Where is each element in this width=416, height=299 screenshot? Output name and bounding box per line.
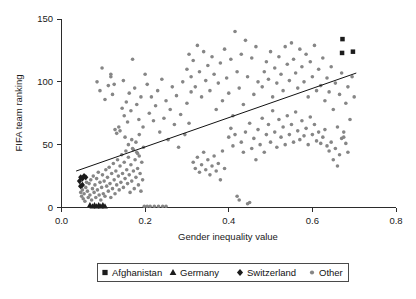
data-point-circle bbox=[229, 57, 233, 61]
data-point-circle bbox=[292, 57, 296, 61]
data-point-circle bbox=[97, 193, 101, 197]
data-point-circle bbox=[315, 89, 319, 93]
data-point-circle bbox=[210, 55, 214, 59]
data-point-circle bbox=[311, 75, 315, 79]
x-axis-title: Gender inequality value bbox=[178, 231, 278, 242]
data-point-circle bbox=[191, 160, 195, 164]
data-point-circle bbox=[99, 198, 103, 202]
data-point-circle bbox=[281, 125, 285, 129]
data-point-circle bbox=[91, 174, 95, 178]
data-point-circle bbox=[204, 79, 208, 83]
data-point-circle bbox=[231, 144, 235, 148]
data-point-circle bbox=[181, 80, 185, 84]
x-tick-label: 0.6 bbox=[306, 215, 319, 226]
x-axis-ticks: 0.00.20.40.60.8 bbox=[55, 208, 403, 227]
data-point-circle bbox=[82, 192, 86, 196]
data-point-circle bbox=[254, 158, 258, 162]
data-point-circle bbox=[139, 189, 143, 193]
data-point-circle bbox=[127, 173, 131, 177]
data-point-circle bbox=[105, 184, 109, 188]
data-point-circle bbox=[117, 188, 121, 192]
data-point-circle bbox=[179, 113, 183, 117]
legend-label-other: Other bbox=[319, 267, 343, 278]
data-point-circle bbox=[271, 95, 275, 99]
data-point-circle bbox=[202, 50, 206, 54]
data-point-circle bbox=[235, 194, 239, 198]
data-point-circle bbox=[122, 186, 126, 190]
data-point-circle bbox=[87, 182, 91, 186]
data-point-circle bbox=[107, 84, 111, 88]
data-point-circle bbox=[153, 204, 157, 208]
data-point-circle bbox=[107, 165, 111, 169]
data-point-circle bbox=[317, 67, 321, 71]
data-point-circle bbox=[338, 153, 342, 157]
data-point-circle bbox=[138, 172, 142, 176]
data-point-circle bbox=[223, 47, 227, 51]
data-point-circle bbox=[111, 187, 115, 191]
data-point-circle bbox=[187, 122, 191, 126]
data-point-circle bbox=[117, 174, 121, 178]
data-point-circle bbox=[96, 171, 100, 175]
data-point-circle bbox=[323, 99, 327, 103]
data-point-circle bbox=[331, 158, 335, 162]
data-point-circle bbox=[122, 114, 126, 118]
data-point-circle bbox=[127, 155, 131, 159]
data-point-circle bbox=[290, 123, 294, 127]
data-point-circle bbox=[227, 91, 231, 95]
data-point-circle bbox=[141, 178, 145, 182]
data-point-circle bbox=[262, 150, 266, 154]
data-point-circle bbox=[94, 196, 98, 200]
data-point-circle bbox=[308, 115, 312, 119]
data-point-circle bbox=[110, 172, 114, 176]
data-point-circle bbox=[115, 183, 119, 187]
data-point-circle bbox=[113, 128, 117, 132]
data-point-circle bbox=[116, 158, 120, 162]
data-point-circle bbox=[344, 142, 348, 146]
data-point-circle bbox=[327, 90, 331, 94]
data-point-circle bbox=[214, 108, 218, 112]
data-point-circle bbox=[336, 164, 340, 168]
data-point-circle bbox=[109, 72, 113, 76]
data-point-circle bbox=[185, 101, 189, 105]
chart-legend: AfghanistanGermanySwitzerlandOther bbox=[98, 264, 349, 282]
data-point-circle bbox=[298, 47, 302, 51]
x-tick-label: 0.2 bbox=[139, 215, 152, 226]
y-axis-ticks: 050100150 bbox=[37, 13, 61, 213]
data-point-circle bbox=[288, 79, 292, 83]
data-point-circle bbox=[216, 162, 220, 166]
data-point-circle bbox=[148, 111, 152, 115]
data-point-circle bbox=[275, 81, 279, 85]
data-point-circle bbox=[91, 187, 95, 191]
data-point-circle bbox=[250, 56, 254, 60]
data-point-circle bbox=[124, 149, 128, 153]
data-point-circle bbox=[262, 70, 266, 74]
data-point-circle bbox=[135, 103, 139, 107]
data-point-circle bbox=[123, 135, 127, 139]
data-point-circle bbox=[132, 169, 136, 173]
data-point-circle bbox=[139, 95, 143, 99]
data-point-circle bbox=[112, 83, 116, 87]
data-point-circle bbox=[143, 72, 147, 76]
data-point-circle bbox=[237, 198, 241, 202]
data-point-circle bbox=[200, 95, 204, 99]
data-point-circle bbox=[219, 61, 223, 65]
data-point-circle bbox=[252, 93, 256, 97]
data-point-circle bbox=[279, 72, 283, 76]
data-point-circle bbox=[334, 147, 338, 151]
data-point-square bbox=[340, 37, 345, 42]
data-point-circle bbox=[136, 152, 140, 156]
data-point-circle bbox=[154, 104, 158, 108]
data-point-circle bbox=[273, 66, 277, 70]
data-point-circle bbox=[126, 120, 130, 124]
data-point-circle bbox=[130, 179, 134, 183]
data-point-circle bbox=[119, 181, 123, 185]
chart-figure: 050100150 0.00.20.40.60.8 FIFA team rank… bbox=[0, 0, 416, 299]
data-point-circle bbox=[103, 194, 107, 198]
data-point-circle bbox=[125, 100, 129, 104]
data-point-circle bbox=[171, 85, 175, 89]
data-point-circle bbox=[196, 44, 200, 48]
data-point-circle bbox=[108, 182, 112, 186]
data-point-circle bbox=[302, 134, 306, 138]
data-point-circle bbox=[104, 168, 108, 172]
data-point-circle bbox=[340, 71, 344, 75]
